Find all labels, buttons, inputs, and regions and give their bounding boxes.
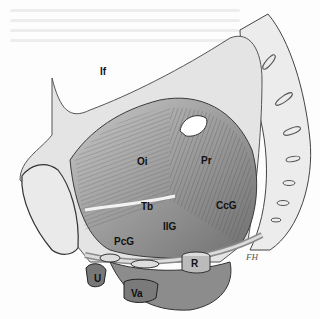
label-Tb: Tb [141, 202, 153, 212]
artist-signature: FH [246, 252, 258, 262]
label-U: U [94, 274, 101, 284]
pelvis-drawing [0, 0, 320, 319]
label-R: R [191, 259, 198, 269]
label-IIG: IIG [163, 222, 176, 232]
label-CcG: CcG [216, 201, 237, 211]
label-Pr: Pr [201, 156, 212, 166]
label-Va: Va [131, 289, 143, 299]
label-PcG: PcG [114, 237, 134, 247]
label-Oi: Oi [137, 157, 148, 167]
label-If: If [100, 67, 106, 77]
anatomy-illustration: If Oi Pr Tb IIG CcG PcG R U Va FH [0, 0, 320, 319]
